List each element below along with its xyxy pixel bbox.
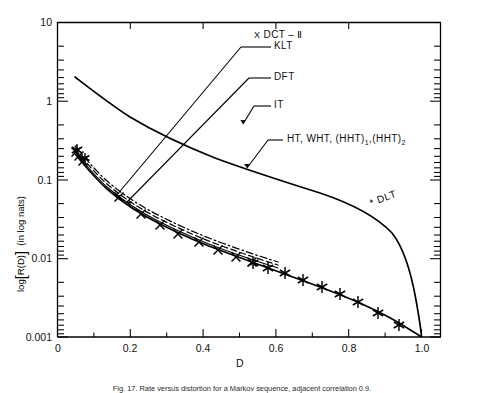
x-tick-label-0.8: 0.8 bbox=[335, 343, 363, 354]
x-tick-label-0: 0 bbox=[44, 343, 72, 354]
axis-frame bbox=[58, 22, 442, 337]
y-tick-label-1: 1 bbox=[22, 96, 52, 107]
y-tick-label-10: 10 bbox=[22, 17, 52, 28]
legend-entry-dct: X DCT – Ⅱ bbox=[254, 30, 303, 40]
asterisk-markers bbox=[72, 144, 404, 331]
y-axis-title: log[R(D)] (in log nats) bbox=[12, 196, 29, 292]
y-tick-label-0.1: 0.1 bbox=[14, 175, 52, 186]
y-axis-title-bracket-close: ] bbox=[12, 251, 29, 255]
y-axis-title-bracket-open: [ bbox=[12, 275, 29, 279]
x-tick-label-1.0: 1.0 bbox=[408, 343, 436, 354]
legend-label-it: IT bbox=[274, 100, 284, 110]
curve-dct-ht-bundle bbox=[75, 154, 422, 337]
legend-ht-part-a: HT, WHT, (HHT) bbox=[287, 133, 365, 144]
curve-it bbox=[75, 146, 278, 262]
x-axis-ticks bbox=[58, 23, 422, 338]
x-tick-label-0.2: 0.2 bbox=[116, 343, 144, 354]
x-tick-label-0.6: 0.6 bbox=[262, 343, 290, 354]
rate-distortion-chart bbox=[0, 0, 484, 393]
legend-label-dft: DFT bbox=[274, 72, 295, 82]
y-tick-label-0.001: 0.001 bbox=[4, 332, 52, 343]
y-axis-ticks bbox=[58, 23, 441, 338]
figure-container: 10 1 0.1 0.01 0.001 0 0.2 0.4 0.6 0.8 1.… bbox=[0, 0, 484, 393]
y-axis-title-units: (in log nats) bbox=[15, 196, 26, 246]
legend-x-marker: X bbox=[254, 30, 260, 40]
legend-leader-lines bbox=[116, 47, 283, 206]
figure-caption: Fig. 17. Rate versus distortion for a Ma… bbox=[0, 384, 484, 393]
x-markers bbox=[72, 148, 257, 267]
y-axis-title-log: log bbox=[15, 279, 26, 292]
x-axis-title: D bbox=[236, 358, 244, 369]
legend-ht-part-b: ,(HHT) bbox=[369, 133, 401, 144]
legend-label-dct: DCT – Ⅱ bbox=[264, 29, 303, 40]
y-axis-title-var: R(D) bbox=[15, 255, 26, 275]
legend-label-klt: KLT bbox=[274, 41, 293, 51]
legend-ht-sub-2: 2 bbox=[402, 139, 406, 146]
legend-label-ht-wht-hht: HT, WHT, (HHT)1,(HHT)2 bbox=[287, 134, 406, 146]
x-tick-label-0.4: 0.4 bbox=[189, 343, 217, 354]
